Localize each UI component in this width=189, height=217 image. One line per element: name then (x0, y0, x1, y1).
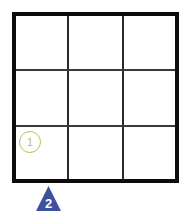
grid-board: 1 (12, 12, 179, 183)
triangle-marker-2: 2 (35, 185, 62, 212)
grid-line-horizontal-2 (16, 125, 175, 127)
triangle-marker-label: 2 (45, 196, 52, 211)
circle-marker-label: 1 (27, 136, 33, 148)
grid-line-vertical-1 (67, 16, 69, 179)
circle-marker-1: 1 (19, 131, 41, 153)
grid-line-vertical-2 (122, 16, 124, 179)
grid-line-horizontal-1 (16, 69, 175, 71)
